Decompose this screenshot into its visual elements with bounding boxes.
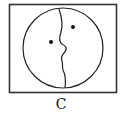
face-circle xyxy=(23,8,103,88)
option-label: C xyxy=(0,96,122,112)
left-eye-dot xyxy=(49,40,53,44)
profile-line xyxy=(59,9,66,88)
frame xyxy=(10,5,117,93)
right-eye-dot xyxy=(71,25,75,29)
